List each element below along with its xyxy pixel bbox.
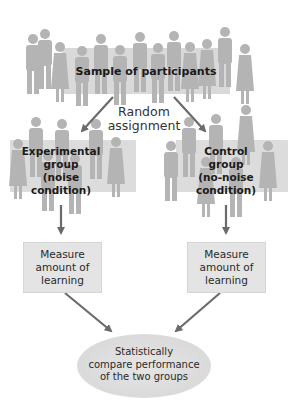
control-line-3: (no-noise (183, 171, 269, 184)
measure-learning-box-right: Measure amount of learning (187, 242, 266, 293)
sample-of-participants-label: Sample of participants (62, 65, 230, 78)
experimental-line-4: condition) (18, 184, 104, 197)
arrow-left-measure-to-compare (65, 293, 111, 331)
experimental-line-3: (noise (18, 171, 104, 184)
measure-learning-box-left: Measure amount of learning (23, 242, 102, 293)
measure-learning-left-text: Measure amount of learning (36, 248, 90, 287)
experimental-line-1: Experimental (18, 145, 104, 158)
measure-right-line-2: amount of (200, 261, 254, 274)
control-line-1: Control (183, 145, 269, 158)
assignment-line: assignment (104, 119, 184, 133)
measure-right-line-3: learning (200, 274, 254, 287)
control-group-label: Control group (no-noise condition) (183, 145, 269, 197)
compare-line-1: Statistically (84, 346, 204, 359)
random-assignment-label: Random assignment (104, 105, 184, 133)
measure-left-line-2: amount of (36, 261, 90, 274)
measure-right-line-1: Measure (200, 248, 254, 261)
experimental-group-label: Experimental group (noise condition) (18, 145, 104, 197)
diagram-graphics (0, 0, 289, 400)
experimental-line-2: group (18, 158, 104, 171)
random-line: Random (104, 105, 184, 119)
control-line-4: condition) (183, 184, 269, 197)
compare-line-2: compare performance (84, 359, 204, 372)
compare-performance-label: Statistically compare performance of the… (84, 346, 204, 384)
arrow-right-measure-to-compare (176, 293, 220, 331)
measure-left-line-1: Measure (36, 248, 90, 261)
measure-left-line-3: learning (36, 274, 90, 287)
measure-learning-right-text: Measure amount of learning (200, 248, 254, 287)
control-line-2: group (183, 158, 269, 171)
compare-line-3: of the two groups (84, 371, 204, 384)
